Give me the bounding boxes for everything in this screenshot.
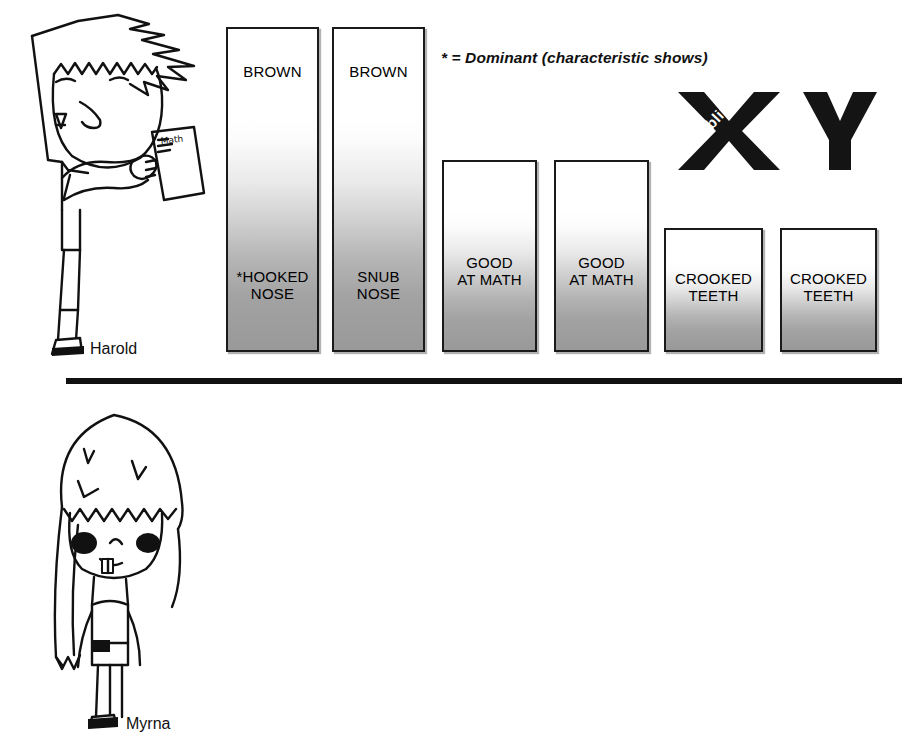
chromosome-bottom-label: GOOD AT MATH bbox=[556, 254, 647, 288]
chromosome-harold-eye-nose-1[interactable]: BROWN *HOOKED NOSE bbox=[226, 27, 319, 352]
chromosome-bottom-label: CROOKED TEETH bbox=[666, 270, 761, 304]
chromosome-harold-eye-nose-2[interactable]: BROWN SNUB NOSE bbox=[332, 27, 425, 352]
chromosome-top-label: BROWN bbox=[334, 63, 423, 80]
svg-text:Math: Math bbox=[160, 134, 183, 146]
chromosome-bottom-label: CROOKED TEETH bbox=[782, 270, 875, 304]
svg-text:Harold: Harold bbox=[90, 340, 137, 357]
character-myrna: Myrna bbox=[22, 397, 222, 737]
person-panel-myrna: Myrna Myrna * = Dominant (characteristic… bbox=[0, 375, 910, 750]
chromosome-harold-math-1[interactable]: GOOD AT MATH bbox=[442, 160, 537, 352]
person-panel-harold: Math Harold Harold * = Dominant (charact… bbox=[0, 0, 910, 375]
svg-text:Myrna: Myrna bbox=[126, 715, 171, 732]
chromosome-harold-teeth-1[interactable]: CROOKED TEETH bbox=[664, 228, 763, 352]
chromosome-bottom-label: SNUB NOSE bbox=[334, 268, 423, 302]
dominant-legend-top: * = Dominant (characteristic shows) bbox=[441, 49, 708, 67]
chromosome-bottom-label: *HOOKED NOSE bbox=[228, 268, 317, 302]
chromosome-harold-teeth-2[interactable]: CROOKED TEETH bbox=[780, 228, 877, 352]
character-harold: Math Harold bbox=[18, 10, 223, 360]
sex-chromosome-x-colorblind[interactable]: Colorblind bbox=[674, 88, 784, 174]
chromosome-harold-math-2[interactable]: GOOD AT MATH bbox=[554, 160, 649, 352]
chromosome-bottom-label: GOOD AT MATH bbox=[444, 254, 535, 288]
sex-chromosome-y[interactable] bbox=[800, 88, 880, 174]
chromosome-top-label: BROWN bbox=[228, 63, 317, 80]
